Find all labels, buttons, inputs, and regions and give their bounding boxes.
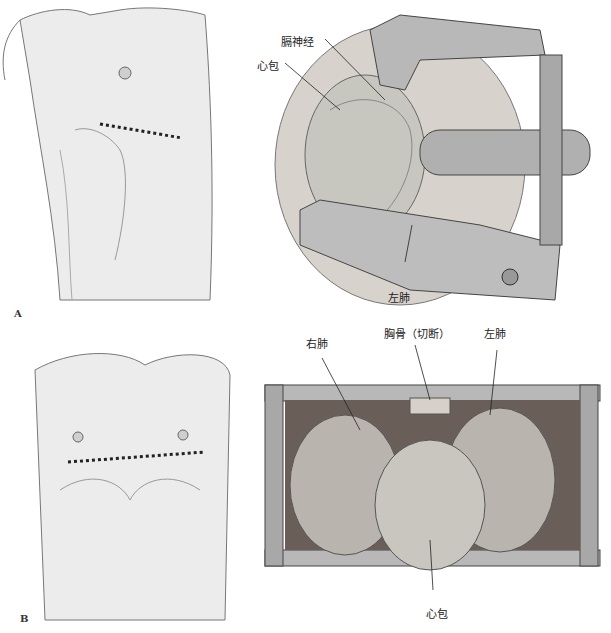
label-right-lung: 右肺 — [306, 335, 328, 351]
panel-b: 右肺 胸骨（切断） 左肺 心包 B — [0, 320, 611, 633]
label-pericardium-a: 心包 — [257, 57, 279, 73]
panel-b-illustration — [0, 320, 611, 633]
panel-a: 膈神经 心包 左肺 A — [0, 0, 611, 320]
label-sternum-divided: 胸骨（切断） — [384, 325, 450, 341]
label-left-lung-b: 左肺 — [484, 325, 506, 341]
label-pericardium-b: 心包 — [426, 605, 448, 621]
panel-letter-a: A — [14, 308, 22, 319]
label-phrenic-nerve: 膈神经 — [281, 33, 314, 49]
label-left-lung-a: 左肺 — [388, 289, 410, 305]
panel-letter-b: B — [20, 613, 28, 624]
